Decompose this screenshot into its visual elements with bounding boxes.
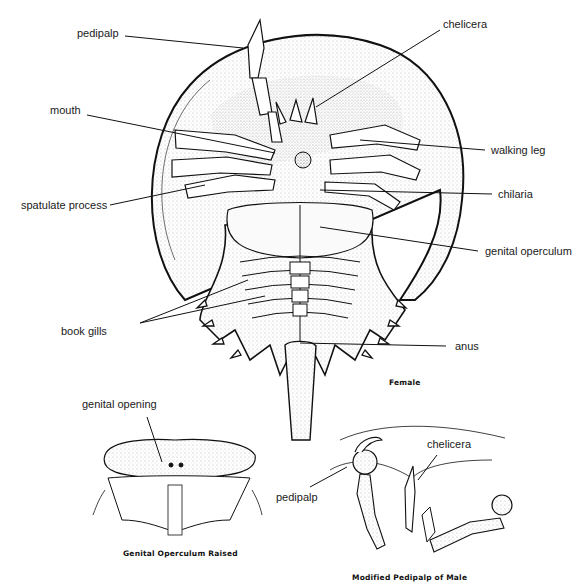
label-pedipalp: pedipalp xyxy=(77,27,119,39)
label-book-gills: book gills xyxy=(61,325,107,337)
caption-modified-pedipalp-male: Modified Pedipalp of Male xyxy=(352,573,467,582)
label-anus: anus xyxy=(455,340,479,352)
label-genital-opening: genital opening xyxy=(82,398,157,410)
label-chelicera: chelicera xyxy=(443,18,487,30)
inset-genital-operculum xyxy=(93,417,262,535)
inset-male-pedipalp xyxy=(310,426,512,552)
telson xyxy=(285,341,316,440)
label-spatulate-process: spatulate process xyxy=(21,199,107,211)
label-inset-chelicera: chelicera xyxy=(427,438,471,450)
label-mouth: mouth xyxy=(50,104,81,116)
label-walking-leg: walking leg xyxy=(491,144,545,156)
label-inset-pedipalp: pedipalp xyxy=(276,491,318,503)
caption-genital-operculum-raised: Genital Operculum Raised xyxy=(123,549,238,558)
caption-female: Female xyxy=(389,378,421,387)
label-genital-operculum: genital operculum xyxy=(485,245,572,257)
mouth-center xyxy=(295,152,311,168)
main-female-view xyxy=(152,20,463,440)
label-chilaria: chilaria xyxy=(498,188,533,200)
